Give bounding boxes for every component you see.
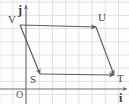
vector-parallelogram-figure: V U T S j i O	[0, 0, 129, 104]
figure-canvas: V U T S j i O	[0, 0, 129, 104]
origin-label: O	[16, 89, 23, 100]
vector-v-to-u	[20, 25, 96, 27]
vertex-label-v: V	[8, 13, 16, 25]
vertex-label-s: S	[30, 73, 36, 85]
vertex-label-t: T	[117, 72, 124, 84]
vector-edges	[20, 25, 114, 75]
vector-v-to-s	[20, 25, 40, 74]
vector-s-to-t	[40, 74, 114, 75]
vertex-label-u: U	[98, 11, 106, 23]
j-axis-label: j	[17, 3, 22, 17]
i-axis-label: i	[119, 91, 123, 104]
